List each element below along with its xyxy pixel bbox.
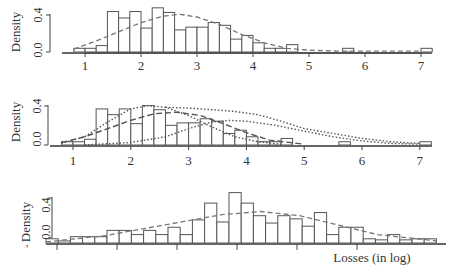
histogram-bar <box>95 237 107 243</box>
x-tick-label: 6 <box>359 153 366 168</box>
x-tick-label: 2 <box>128 153 135 168</box>
histogram-bar <box>85 48 96 52</box>
x-ticks-middle: 1234567 <box>70 146 424 168</box>
x-tick-label: 4 <box>250 58 257 73</box>
histogram-bar <box>96 46 107 52</box>
x-tick-label: 3 <box>194 58 201 73</box>
x-tick-label: 1 <box>82 58 89 73</box>
histogram-bar <box>420 142 432 145</box>
histogram-bar <box>197 27 208 52</box>
x-tick-label: 5 <box>306 58 313 73</box>
histogram-bar <box>229 193 241 243</box>
y-axis-top <box>46 14 50 52</box>
histogram-bar <box>217 222 229 243</box>
x-tick-label: 3 <box>185 153 192 168</box>
histogram-bar <box>152 8 163 52</box>
histogram-bar <box>192 220 204 243</box>
x-tick-label: 1 <box>70 153 77 168</box>
y-axis-middle <box>44 105 48 145</box>
histogram-bar <box>73 142 85 145</box>
y-axis-label-top: Density <box>8 11 23 52</box>
histogram-bar <box>241 203 253 243</box>
histogram-bar <box>180 235 192 243</box>
panel-top: Density 0.4 0.0 1234567 <box>8 8 432 74</box>
histogram-bar <box>175 30 186 52</box>
histogram-bar <box>154 110 166 145</box>
x-ticks-top: 1234567 <box>82 53 425 73</box>
histogram-bar <box>231 39 242 52</box>
histogram-bar <box>363 239 375 243</box>
histogram-bar <box>253 216 265 243</box>
x-tick-label: 7 <box>418 58 425 73</box>
x-tick-label: 2 <box>138 58 145 73</box>
figure: Density 0.4 0.0 1234567 Density 0.4 0.0 … <box>0 0 453 275</box>
histogram-bar <box>141 28 152 52</box>
histogram-bar <box>339 142 351 145</box>
y-tick-04-bottom: 0.4 <box>39 198 53 213</box>
x-tick-label: 7 <box>417 153 424 168</box>
y-tick-04-middle: 0.4 <box>30 99 44 114</box>
histogram-bar <box>130 12 141 52</box>
histogram-bar <box>253 43 264 52</box>
histogram-bar <box>339 227 351 243</box>
histogram-bar <box>177 123 189 145</box>
histogram-bar <box>163 12 174 52</box>
histogram-bar <box>186 27 197 52</box>
x-tick-label: 5 <box>301 153 308 168</box>
histogram-bar <box>375 240 387 243</box>
histogram-bar <box>212 121 224 145</box>
x-tick-label: 6 <box>362 58 369 73</box>
histogram-bar <box>278 216 290 243</box>
histogram-bar <box>421 48 432 52</box>
histogram-bar <box>85 139 97 145</box>
histogram-bar <box>205 203 217 243</box>
y-tick-00-top: 0.0 <box>31 43 45 58</box>
histogram-bar <box>107 12 118 52</box>
histogram-bar <box>223 134 235 145</box>
histogram-bar <box>168 227 180 243</box>
histogram-bar <box>290 219 302 243</box>
y-tick-00-bottom: 0.0 <box>39 225 53 240</box>
histogram-bar <box>400 240 412 243</box>
y-tick-04-top: 0.4 <box>31 8 45 23</box>
histogram-bar <box>131 124 143 145</box>
histogram-bar <box>208 23 219 52</box>
histogram-bar <box>327 235 339 243</box>
histogram-bar <box>119 18 130 52</box>
x-tick-label: 4 <box>243 153 250 168</box>
histogram-bar <box>302 226 314 243</box>
histogram-bar <box>266 223 278 243</box>
histogram-bar <box>107 230 119 243</box>
y-axis-label-middle: Density <box>8 101 23 142</box>
histogram-bar <box>156 235 168 243</box>
histogram-bar <box>275 48 286 52</box>
x-axis-label: Losses (in log) <box>333 250 410 265</box>
histogram-bar <box>144 230 156 243</box>
y-tick-00-middle: 0.0 <box>30 132 44 147</box>
histogram-bar <box>96 109 108 145</box>
histogram-bar <box>314 213 326 243</box>
histogram-bar <box>165 125 177 145</box>
histogram-bar <box>108 115 120 145</box>
panel-middle: Density 0.4 0.0 1234567 <box>8 99 432 169</box>
panel-bottom: Density , 0.4 0.0 Losses (in log) <box>18 193 446 265</box>
histogram-bar <box>58 241 70 243</box>
histogram-bar <box>264 48 275 52</box>
histogram-bar <box>131 235 143 243</box>
histogram-bar <box>200 119 212 145</box>
histogram-top <box>74 8 432 52</box>
y-axis-stub-bottom: , <box>26 236 29 248</box>
histogram-bar <box>270 142 282 145</box>
